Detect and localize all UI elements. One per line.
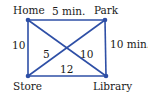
- edge-weight-home-store: 10: [12, 40, 25, 51]
- edge-weight-park-library: 10 min.: [110, 39, 148, 50]
- edge-weight-store-library: 12: [60, 64, 73, 75]
- edge-weight-home-library: 10: [80, 49, 93, 60]
- node-store-dot: [26, 74, 31, 79]
- node-home-dot: [26, 18, 31, 23]
- node-label-home: Home: [13, 5, 45, 16]
- node-library-dot: [104, 74, 109, 79]
- edge-park-library: [105, 20, 106, 76]
- edge-weight-home-park: 5 min.: [52, 6, 85, 17]
- node-label-park: Park: [94, 5, 118, 16]
- edge-weight-store-park: 5: [43, 49, 50, 60]
- node-label-library: Library: [93, 81, 132, 92]
- node-label-store: Store: [13, 81, 42, 92]
- node-park-dot: [103, 18, 108, 23]
